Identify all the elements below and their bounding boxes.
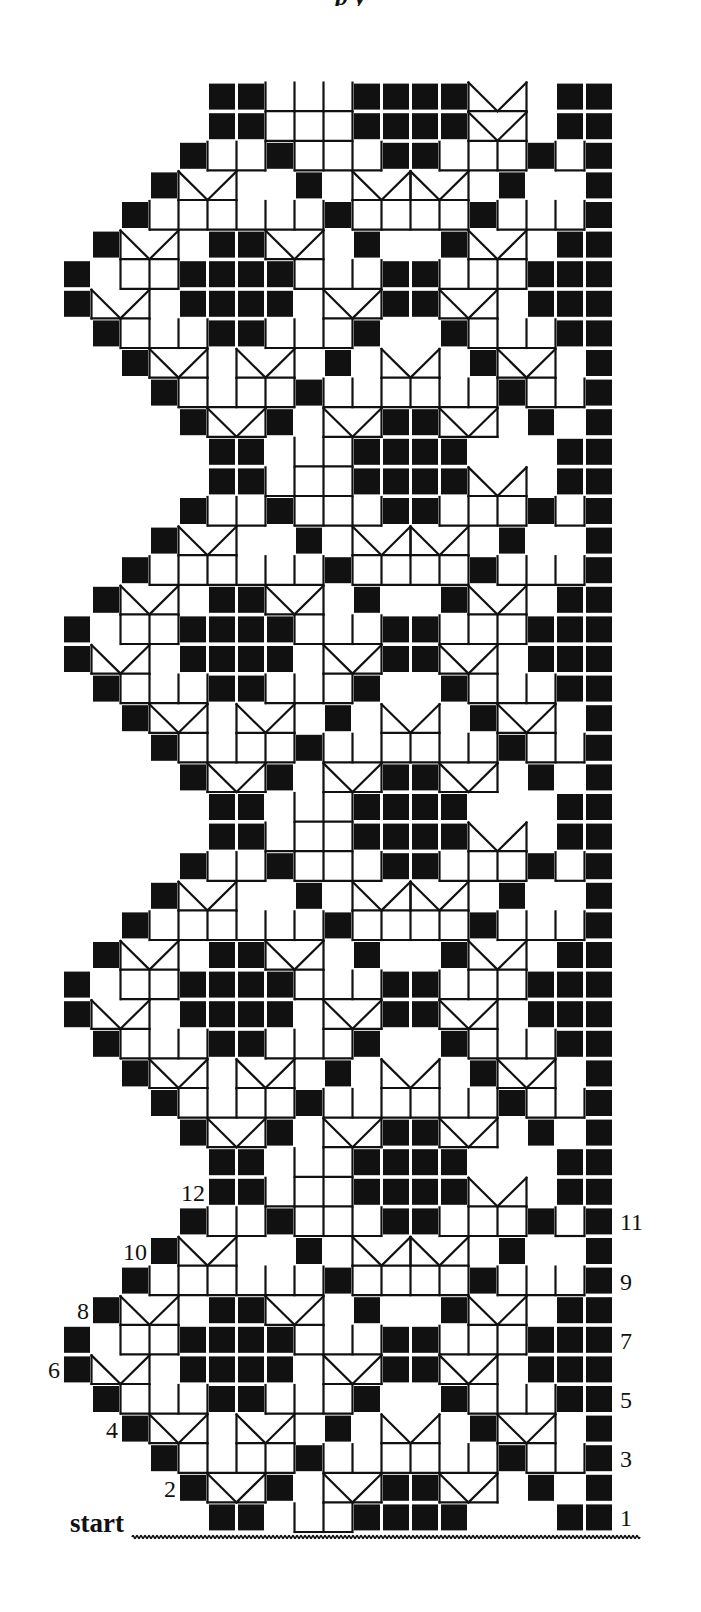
filled-block [296,172,322,198]
filled-block [209,320,235,346]
filled-block [586,676,612,702]
filled-block [267,1001,293,1027]
filled-block [470,912,496,938]
filled-block [441,1386,467,1412]
filled-block [557,616,583,642]
filled-block [412,972,438,998]
filled-block [557,824,583,850]
filled-block [296,1090,322,1116]
filled-block [586,172,612,198]
filled-block [586,380,612,406]
filled-block [209,1179,235,1205]
filled-block [441,1179,467,1205]
filled-block [267,261,293,287]
lacet-and-bar-lines [92,83,585,1532]
filled-block [499,172,525,198]
filled-block [383,1120,409,1146]
filled-block [586,735,612,761]
filled-block [354,468,380,494]
filled-block [557,1327,583,1353]
filled-block [557,646,583,672]
filled-block [586,202,612,228]
row-label-6: 6 [20,1358,60,1382]
filled-block [209,1031,235,1057]
filled-block [528,764,554,790]
filled-block [180,143,206,169]
filled-block [441,468,467,494]
filled-block [180,1475,206,1501]
row-label-2: 2 [136,1477,176,1501]
filled-block [267,409,293,435]
filled-block [412,1149,438,1175]
filled-block [528,498,554,524]
filled-block [412,1179,438,1205]
filled-block [238,1031,264,1057]
filled-block [238,587,264,613]
filled-block [586,1060,612,1086]
filled-block [586,528,612,554]
filled-block [122,350,148,376]
filled-block [209,794,235,820]
filled-block [238,113,264,139]
filled-block [209,232,235,258]
filled-block [499,883,525,909]
filled-block [586,261,612,287]
filled-block [557,676,583,702]
filled-block [180,261,206,287]
filled-block [238,824,264,850]
filled-block [586,1120,612,1146]
filled-block [383,143,409,169]
filled-block [267,143,293,169]
filled-block [499,1445,525,1471]
filled-block [122,705,148,731]
filled-block [238,972,264,998]
filled-block [557,320,583,346]
filled-block [354,113,380,139]
filled-block [499,1238,525,1264]
filled-block [412,764,438,790]
filled-block [325,1268,351,1294]
filled-block [412,1504,438,1530]
filled-block [528,1327,554,1353]
filled-block [354,1386,380,1412]
filled-block [209,1504,235,1530]
filled-block [209,1356,235,1382]
filled-block [354,942,380,968]
filled-block [441,1149,467,1175]
filled-block [528,1475,554,1501]
filled-block [557,232,583,258]
filled-block [238,1327,264,1353]
filled-block [93,1297,119,1323]
filled-block [296,528,322,554]
filled-block [586,113,612,139]
filled-block [586,1504,612,1530]
filled-block [151,1090,177,1116]
filled-block [238,84,264,110]
filled-block [122,1268,148,1294]
filled-block [238,616,264,642]
filled-block [383,1179,409,1205]
filled-block [209,824,235,850]
filled-block [296,883,322,909]
filled-block [180,616,206,642]
row-label-7: 7 [620,1329,632,1353]
filled-block [180,409,206,435]
filled-block [209,1386,235,1412]
filled-block [354,439,380,465]
filled-block [557,1386,583,1412]
filled-block [383,409,409,435]
filled-block [93,320,119,346]
filled-block [412,1356,438,1382]
filled-block [383,853,409,879]
filled-block [412,1001,438,1027]
filled-block [586,1090,612,1116]
filled-block [93,942,119,968]
filled-block [441,942,467,968]
filled-block [64,616,90,642]
filled-block [586,439,612,465]
filled-block [383,1149,409,1175]
filled-block [64,972,90,998]
row-label-8: 8 [49,1299,89,1323]
filled-block [267,1475,293,1501]
filled-block [470,1416,496,1442]
